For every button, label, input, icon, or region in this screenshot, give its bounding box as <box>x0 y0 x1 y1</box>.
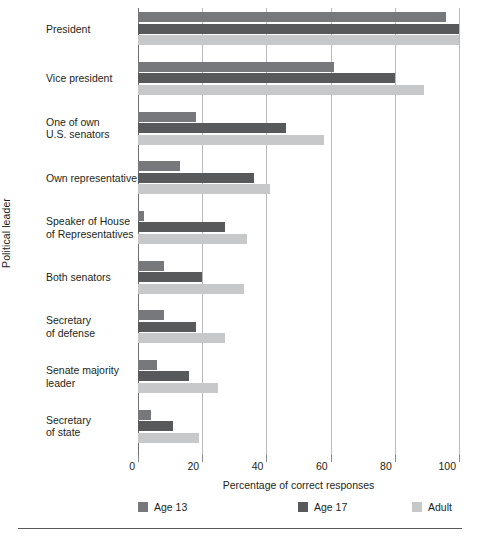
bar <box>138 234 247 244</box>
bar <box>138 383 218 393</box>
bar-group <box>138 58 459 108</box>
bar <box>138 24 459 34</box>
bar-group <box>138 405 459 455</box>
bar-group <box>138 107 459 157</box>
bar <box>138 371 189 381</box>
tick-label-80: 80 <box>380 460 395 472</box>
tick-label-100: 100 <box>438 460 459 472</box>
footer-divider <box>18 528 462 529</box>
bar <box>138 222 225 232</box>
legend-item-age-13[interactable]: Age 13 <box>138 501 187 513</box>
bar <box>138 421 173 431</box>
legend-label: Age 17 <box>314 501 347 513</box>
bar <box>138 12 446 22</box>
bar <box>138 261 164 271</box>
legend-label: Adult <box>428 501 452 513</box>
bar <box>138 35 459 45</box>
legend-item-adult[interactable]: Adult <box>412 501 452 513</box>
bar <box>138 322 196 332</box>
bar <box>138 112 196 122</box>
bar <box>138 161 180 171</box>
tick-mark-80 <box>395 455 396 462</box>
bar <box>138 310 164 320</box>
bar <box>138 135 324 145</box>
legend-label: Age 13 <box>154 501 187 513</box>
bar <box>138 360 157 370</box>
tick-mark-40 <box>266 455 267 462</box>
bar-chart-figure: Political leader PresidentVice president… <box>0 0 480 538</box>
bar-group <box>138 207 459 257</box>
bar <box>138 184 270 194</box>
bar-group <box>138 256 459 306</box>
bar-group <box>138 356 459 406</box>
tick-label-60: 60 <box>316 460 331 472</box>
tick-mark-20 <box>202 455 203 462</box>
bar <box>138 173 254 183</box>
legend-swatch-icon <box>298 502 308 512</box>
legend-swatch-icon <box>412 502 422 512</box>
tick-mark-100 <box>459 455 460 462</box>
bar <box>138 433 199 443</box>
bar-group <box>138 8 459 58</box>
legend-swatch-icon <box>138 502 148 512</box>
category-label-list: PresidentVice presidentOne of ownU.S. se… <box>8 8 130 455</box>
plot-area <box>138 8 459 455</box>
tick-label-40: 40 <box>252 460 267 472</box>
x-axis-title: Percentage of correct responses <box>138 479 459 491</box>
bar-group <box>138 306 459 356</box>
bar <box>138 284 244 294</box>
bar <box>138 410 151 420</box>
plot-inner <box>138 8 459 455</box>
bar <box>138 333 225 343</box>
tick-mark-0 <box>138 455 139 462</box>
legend-item-age-17[interactable]: Age 17 <box>298 501 347 513</box>
x-axis-ticks: 020406080100 <box>138 455 459 473</box>
bar-group <box>138 157 459 207</box>
tick-label-20: 20 <box>188 460 203 472</box>
bar <box>138 85 424 95</box>
bar <box>138 62 334 72</box>
bar <box>138 211 144 221</box>
tick-label-0: 0 <box>129 460 138 472</box>
bar <box>138 123 286 133</box>
chart-legend: Age 13Age 17Adult <box>130 501 460 517</box>
tick-mark-60 <box>331 455 332 462</box>
bar <box>138 272 202 282</box>
bar <box>138 73 395 83</box>
gridline-100 <box>459 8 460 455</box>
